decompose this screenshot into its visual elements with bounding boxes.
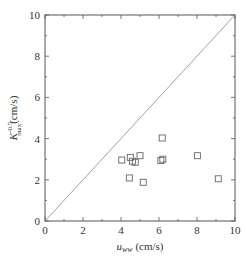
x-tick-label: 2 bbox=[80, 224, 86, 236]
data-point-square bbox=[137, 153, 143, 159]
x-tick-label: 4 bbox=[118, 224, 124, 236]
y-axis-label: K-0.5max(cm/s) bbox=[6, 95, 23, 141]
x-tick-label: 6 bbox=[156, 224, 162, 236]
data-point-square bbox=[126, 175, 132, 181]
data-point-square bbox=[194, 153, 200, 159]
data-point-square bbox=[119, 157, 125, 163]
data-point-square bbox=[159, 135, 165, 141]
x-tick-label: 8 bbox=[194, 224, 200, 236]
y-tick-label: 8 bbox=[35, 50, 41, 62]
y-tick-label: 6 bbox=[35, 91, 41, 103]
scatter-chart: 02468100246810 uww (cm/s) K-0.5max(cm/s) bbox=[0, 0, 246, 262]
y-tick-label: 10 bbox=[29, 9, 41, 21]
reference-line bbox=[45, 15, 235, 221]
y-tick-label: 4 bbox=[35, 133, 41, 145]
data-points bbox=[119, 135, 222, 185]
x-tick-label: 0 bbox=[42, 224, 48, 236]
y-tick-label: 2 bbox=[35, 174, 41, 186]
x-axis-label: uww (cm/s) bbox=[116, 240, 163, 254]
data-point-square bbox=[215, 176, 221, 182]
y-tick-label: 0 bbox=[35, 215, 41, 227]
x-tick-label: 10 bbox=[230, 224, 242, 236]
data-point-square bbox=[140, 179, 146, 185]
